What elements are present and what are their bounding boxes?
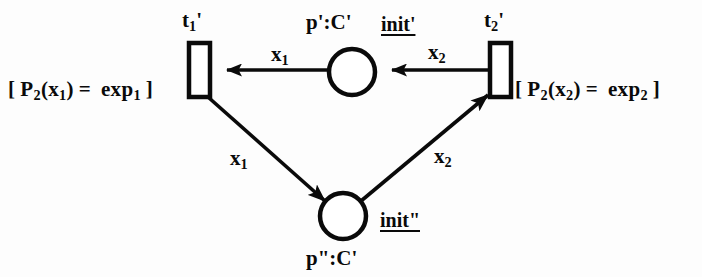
arc0-sub: 1 — [282, 52, 289, 68]
t1-name-prime: ' — [196, 8, 202, 32]
init-label-p-bottom: init" — [380, 210, 420, 230]
arc-bottom-left — [208, 97, 325, 201]
t1-guard-rhs-sub: 1 — [133, 87, 140, 103]
arc2-base: x — [230, 146, 241, 170]
t2-guard-fn: P — [527, 77, 540, 101]
t2-guard-rhs: exp — [608, 77, 640, 101]
place-label-p-top: p':C' — [306, 12, 352, 33]
guard-expression-t1: [P2(x1)=exp1] — [8, 79, 153, 102]
transition-label-t2: t2' — [484, 10, 504, 33]
arc-label-bottom-left: x1 — [230, 148, 248, 171]
arc3-base: x — [434, 144, 445, 168]
t1-guard-fn: P — [20, 77, 33, 101]
t2-guard-open: [ — [515, 77, 522, 101]
arc0-base: x — [271, 42, 282, 66]
t1-guard-close: ] — [146, 77, 153, 101]
place-circle-p-top — [329, 49, 375, 95]
t1-guard-eq: = — [79, 77, 91, 101]
transition-bar-t2 — [490, 43, 511, 97]
t1-guard-open: [ — [8, 77, 15, 101]
arc1-sub: 2 — [439, 50, 446, 66]
t2-guard-fn-sub: 2 — [540, 87, 547, 103]
t1-guard-fn-sub: 2 — [33, 87, 40, 103]
t2-name-base: t — [484, 8, 491, 32]
t1-name-base: t — [182, 8, 189, 32]
arc-label-bottom-right: x2 — [434, 146, 452, 169]
t1-guard-arg: (x — [41, 77, 59, 101]
arc-bottom-right — [361, 95, 488, 201]
guard-expression-t2: [P2(x2)=exp2] — [515, 79, 660, 102]
arc3-sub: 2 — [445, 154, 452, 170]
petri-net-graphic — [0, 0, 702, 277]
t2-guard-close: ] — [653, 77, 660, 101]
transition-bar-t1 — [189, 43, 210, 97]
arc2-sub: 1 — [241, 156, 248, 172]
init-label-p-top: init' — [381, 14, 415, 34]
t2-guard-arg: (x — [548, 77, 566, 101]
t1-guard-rhs: exp — [101, 77, 133, 101]
t2-guard-eq: = — [586, 77, 598, 101]
t2-guard-arg-close: ) — [573, 77, 580, 101]
place-label-p-bottom: p":C' — [306, 248, 357, 269]
arc-label-top-right: x2 — [428, 42, 446, 65]
t2-guard-rhs-sub: 2 — [640, 87, 647, 103]
figure-canvas: t1' t2' [P2(x1)=exp1] [P2(x2)=exp2] p':C… — [0, 0, 702, 277]
t2-name-prime: ' — [498, 8, 504, 32]
t1-guard-arg-close: ) — [66, 77, 73, 101]
arc-label-top-left: x1 — [271, 44, 289, 67]
transition-label-t1: t1' — [182, 10, 202, 33]
arc1-base: x — [428, 40, 439, 64]
place-circle-p-bottom — [320, 193, 366, 239]
